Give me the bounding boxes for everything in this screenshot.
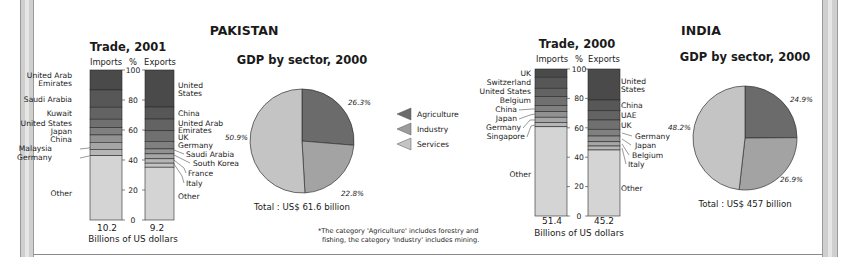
percent-header-india: %	[575, 54, 583, 64]
country-label: Japan	[495, 114, 517, 123]
bar-segment-italy	[145, 163, 174, 167]
import-labels-india: UKSwitzerlandUnited StatesBelgiumChinaJa…	[480, 69, 532, 179]
country-label: UAE	[621, 111, 637, 120]
y-tick-label: 40	[574, 153, 584, 162]
bar-segment-china	[90, 135, 122, 142]
y-axis-pakistan: 020406080100	[122, 66, 145, 225]
legend-item-services: Services	[397, 138, 449, 150]
y-tick-label: 20	[574, 182, 584, 191]
country-label: Singapore	[487, 132, 526, 141]
bar-segment-other	[535, 127, 567, 216]
bar-segment-uk	[145, 131, 174, 142]
bar-segment-switzerland	[535, 77, 567, 88]
country-label: Switzerland	[487, 78, 531, 87]
imports-bar-india	[535, 69, 567, 216]
pct-agriculture-pakistan: 26.3%	[348, 98, 371, 107]
country-label: China	[178, 109, 200, 118]
legend-label-services: Services	[417, 140, 449, 149]
x-axis-unit-india: Billions of US dollars	[534, 228, 624, 238]
x-axis-unit-pakistan: Billions of US dollars	[88, 234, 178, 244]
country-label: Germany	[635, 132, 670, 141]
trade-title-india: Trade, 2000	[539, 37, 615, 51]
country-label: China	[50, 135, 72, 144]
y-tick-label: 20	[128, 186, 138, 195]
country-label: Saudi Arabia	[186, 150, 234, 159]
bar-segment-united-arab-emirates	[145, 119, 174, 131]
pie-slice-services	[250, 89, 305, 193]
y-tick-label: 100	[572, 65, 587, 74]
industry-swatch-icon	[397, 123, 411, 135]
bar-segment-germany	[535, 117, 567, 122]
bar-segment-italy	[588, 146, 620, 150]
bar-segment-other	[588, 150, 620, 216]
bar-segment-united-states	[535, 88, 567, 96]
pct-services-india: 48.2%	[668, 123, 691, 132]
pakistan-panel: PAKISTAN Trade, 2001 Imports % Exports 0…	[17, 23, 371, 244]
bar-segment-germany	[588, 129, 620, 136]
bar-segment-united-states	[145, 70, 174, 107]
trade-title-pakistan: Trade, 2001	[90, 40, 166, 54]
y-tick-label: 0	[131, 216, 136, 225]
bar-segment-china	[588, 100, 620, 111]
country-label: States	[621, 85, 645, 94]
import-labels-pakistan: United ArabEmiratesSaudi ArabiaKuwaitUni…	[17, 71, 73, 198]
gdp-total-india: Total : US$ 457 billion	[697, 199, 791, 209]
pie-slice-agriculture	[745, 86, 797, 138]
bar-segment-germany	[90, 149, 122, 155]
country-label: Other	[178, 192, 200, 201]
bar-segment-malaysia	[90, 142, 122, 149]
country-label: Germany	[178, 141, 213, 150]
bar-segment-other	[90, 156, 122, 220]
legend: Agriculture Industry Services	[397, 108, 459, 150]
gdp-title-india: GDP by sector, 2000	[680, 50, 810, 64]
country-label: Saudi Arabia	[24, 95, 72, 104]
imports-header: Imports	[90, 57, 122, 67]
country-label: Italy	[628, 160, 645, 169]
bar-segment-other	[145, 167, 174, 220]
country-label: Belgium	[632, 151, 663, 160]
exports-total-pakistan: 9.2	[150, 223, 164, 233]
bar-segment-saudi-arabia	[145, 149, 174, 154]
y-tick-label: 60	[128, 126, 138, 135]
agriculture-swatch-icon	[397, 108, 411, 120]
imports-bar-pakistan	[90, 70, 122, 220]
bar-segment-united-states	[90, 119, 122, 127]
country-label: China	[621, 101, 643, 110]
legend-item-industry: Industry	[397, 123, 449, 135]
country-title-india: INDIA	[681, 23, 721, 38]
pie-slice-agriculture	[302, 89, 354, 145]
exports-bar-india	[588, 69, 620, 216]
figure: PAKISTAN Trade, 2001 Imports % Exports 0…	[0, 0, 850, 257]
country-label: Other	[50, 189, 72, 198]
bar-segment-united-arab-emirates	[90, 70, 122, 90]
country-label: Belgium	[500, 96, 531, 105]
y-tick-label: 100	[126, 66, 141, 75]
pct-agriculture-india: 24.9%	[790, 95, 813, 104]
gdp-pie-pakistan	[250, 89, 354, 193]
bar-segment-uae	[588, 111, 620, 120]
y-tick-label: 40	[128, 156, 138, 165]
country-label: States	[178, 89, 202, 98]
country-label: Other	[509, 170, 531, 179]
imports-header-india: Imports	[536, 54, 568, 64]
pct-services-pakistan: 50.9%	[225, 133, 248, 142]
imports-total-india: 51.4	[542, 216, 562, 226]
bar-segment-kuwait	[90, 107, 122, 119]
country-label: Emirates	[38, 79, 72, 88]
bar-segment-china	[535, 106, 567, 112]
bar-segment-france	[145, 159, 174, 163]
country-label: Italy	[186, 179, 203, 188]
footnote-line-2: fishing, the category 'Industry' include…	[322, 236, 479, 244]
country-title-pakistan: PAKISTAN	[210, 23, 279, 38]
country-label: Kuwait	[47, 109, 72, 118]
country-label: Japan	[634, 141, 656, 150]
country-label: Germany	[17, 153, 52, 162]
pct-industry-india: 26.9%	[780, 175, 803, 184]
y-tick-label: 0	[577, 212, 582, 221]
bar-segment-japan	[535, 112, 567, 118]
country-label: United States	[480, 87, 531, 96]
country-label: China	[495, 105, 517, 114]
bar-segment-belgium	[535, 97, 567, 106]
bar-segment-singapore	[535, 123, 567, 127]
legend-item-agriculture: Agriculture	[397, 108, 459, 120]
